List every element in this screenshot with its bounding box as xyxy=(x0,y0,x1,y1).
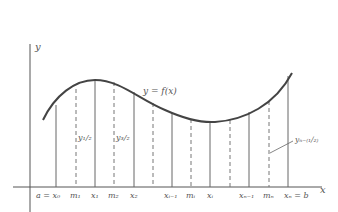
label-m1: m₁ xyxy=(70,191,81,200)
label-mn: mₙ xyxy=(263,191,274,200)
curve-label: y = f(x) xyxy=(142,86,177,96)
label-xn-b: xₙ = b xyxy=(284,191,309,200)
label-xi: xᵢ xyxy=(207,191,214,200)
label-x1: x₁ xyxy=(91,191,99,200)
y-n-minus-half-leader xyxy=(270,141,293,153)
y-three-half-label: y₃/₂ xyxy=(115,133,130,142)
x-axis-label: x xyxy=(320,184,326,195)
label-mi: mᵢ xyxy=(186,191,196,200)
label-a-x0: a = x₀ xyxy=(36,191,61,200)
label-m2: m₂ xyxy=(108,191,119,200)
midpoint-rule-diagram: y x y = f(x) y₁/₂ y₃/₂ yₙ₋₍₁/₂₎ a = x₀ m… xyxy=(0,0,338,212)
label-xn-1: xₙ₋₁ xyxy=(239,191,254,200)
label-x2: x₂ xyxy=(130,191,138,200)
y-half-label: y₁/₂ xyxy=(77,133,92,142)
y-axis-label: y xyxy=(34,41,41,52)
curve-fx xyxy=(43,73,292,122)
label-xi-1: xᵢ₋₁ xyxy=(164,191,178,200)
y-n-minus-half-label: yₙ₋₍₁/₂₎ xyxy=(294,135,319,144)
